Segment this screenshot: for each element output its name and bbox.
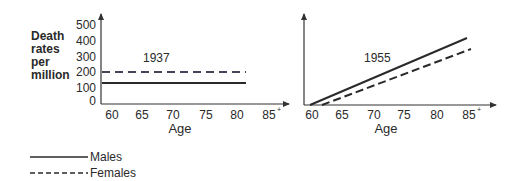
y-axis-title: Death rates per million <box>31 29 70 82</box>
legend-label-females: Females <box>90 166 136 180</box>
x-tick-80: 80 <box>230 108 244 122</box>
x-axis-title: Age <box>374 121 397 136</box>
x-axis-title: Age <box>168 121 191 136</box>
x-tick-80: 80 <box>430 108 444 122</box>
x-tick-65: 65 <box>135 108 149 122</box>
x-tick-70: 70 <box>166 108 180 122</box>
x-tick-60: 60 <box>305 108 319 122</box>
year-label-1937: 1937 <box>143 51 170 65</box>
males-line-1955 <box>310 38 467 105</box>
x-axis-ticks: 60 65 70 75 80 85 + <box>105 106 281 122</box>
x-tick-85: 85 <box>462 108 476 122</box>
x-tick-70: 70 <box>367 108 381 122</box>
year-label-1955: 1955 <box>364 51 391 65</box>
y-tick-100: 100 <box>76 81 96 95</box>
x-tick-65: 65 <box>335 108 349 122</box>
legend-label-males: Males <box>90 150 122 164</box>
x-tick-75: 75 <box>199 108 213 122</box>
y-axis-title-line-2: rates <box>31 42 60 56</box>
x-tick-75: 75 <box>397 108 411 122</box>
x-axis-ticks: 60 65 70 75 80 85 + <box>305 106 481 122</box>
y-axis-title-line-3: per <box>31 55 50 69</box>
x-tick-60: 60 <box>105 108 119 122</box>
y-tick-200: 200 <box>76 65 96 79</box>
y-tick-0: 0 <box>89 94 96 108</box>
y-axis-title-line-1: Death <box>31 29 64 43</box>
y-tick-400: 400 <box>76 34 96 48</box>
y-tick-300: 300 <box>76 50 96 64</box>
y-axis-title-line-4: million <box>31 68 70 82</box>
x-tick-85-suffix: + <box>477 106 481 113</box>
x-tick-85-suffix: + <box>277 106 281 113</box>
legend: Males Females <box>30 150 136 180</box>
chart-1937: Death rates per million 500 400 300 200 … <box>31 14 289 136</box>
death-rates-figure: Death rates per million 500 400 300 200 … <box>0 0 521 181</box>
y-axis-ticks: 500 400 300 200 100 0 <box>76 18 96 108</box>
y-tick-500: 500 <box>76 18 96 32</box>
females-line-1955 <box>322 49 471 105</box>
chart-1955: 1955 60 65 70 75 80 85 + Age <box>304 14 496 136</box>
x-tick-85: 85 <box>262 108 276 122</box>
